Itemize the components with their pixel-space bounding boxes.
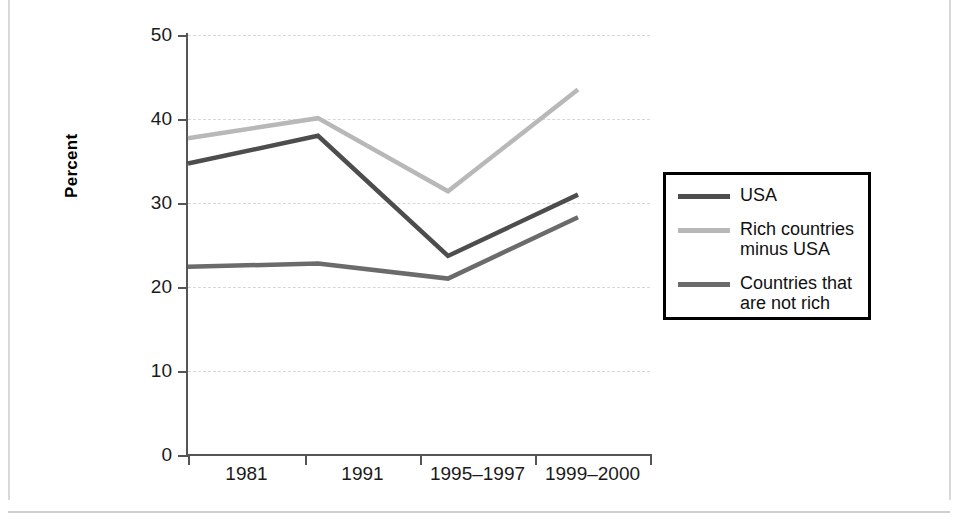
x-axis-line xyxy=(186,454,652,456)
gridline-40 xyxy=(188,119,650,120)
legend-swatch-rich-countries-minus-usa xyxy=(678,228,730,233)
y-tick-10 xyxy=(178,371,187,373)
y-tick-label-0: 0 xyxy=(112,445,172,464)
gridline-50 xyxy=(188,35,650,36)
y-tick-0 xyxy=(178,455,187,457)
y-tick-30 xyxy=(178,203,187,205)
y-tick-40 xyxy=(178,119,187,121)
y-tick-label-50: 50 xyxy=(112,25,172,44)
y-axis-title: Percent xyxy=(62,134,82,198)
x-tick-label-1999-2000: 1999–2000 xyxy=(535,464,650,485)
gridline-30 xyxy=(188,203,650,204)
y-tick-50 xyxy=(178,35,187,37)
x-tick-label-1981: 1981 xyxy=(188,464,305,485)
gridline-20 xyxy=(188,287,650,288)
y-tick-label-40: 40 xyxy=(112,109,172,128)
legend-swatch-usa xyxy=(678,194,730,199)
y-tick-20 xyxy=(178,287,187,289)
series-line-1 xyxy=(188,90,578,192)
legend-label-usa: USA xyxy=(740,185,777,205)
legend-label-rich-countries-minus-usa: Rich countries minus USA xyxy=(740,219,854,259)
legend-swatch-countries-that-are-not-rich xyxy=(678,282,730,287)
legend-item-rich-countries-minus-usa: Rich countries minus USA xyxy=(678,219,854,259)
y-tick-label-30: 30 xyxy=(112,193,172,212)
legend-item-usa: USA xyxy=(678,185,777,205)
chart-legend: USA Rich countries minus USA Countries t… xyxy=(663,172,871,320)
x-tick-label-1995-1997: 1995–1997 xyxy=(420,464,535,485)
page-canvas: 50 40 30 20 10 0 Percent 1981 1991 1995–… xyxy=(0,0,963,526)
x-tick-label-1991: 1991 xyxy=(305,464,420,485)
y-axis-line xyxy=(186,33,188,457)
y-tick-label-10: 10 xyxy=(112,361,172,380)
legend-label-countries-that-are-not-rich: Countries that are not rich xyxy=(740,273,852,313)
gridline-10 xyxy=(188,371,650,372)
x-tick-4 xyxy=(650,455,652,465)
legend-item-countries-that-are-not-rich: Countries that are not rich xyxy=(678,273,852,313)
y-tick-label-20: 20 xyxy=(112,277,172,296)
line-chart: 50 40 30 20 10 0 Percent 1981 1991 1995–… xyxy=(0,0,963,526)
series-line-0 xyxy=(188,136,578,256)
series-line-2 xyxy=(188,217,578,278)
